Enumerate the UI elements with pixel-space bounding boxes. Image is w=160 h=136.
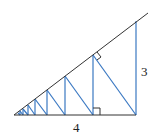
- right-angle-marker-hypotenuse: [97, 52, 101, 60]
- triangle-outline: [14, 13, 148, 115]
- height-label: 3: [141, 64, 148, 80]
- base-label: 4: [73, 120, 80, 136]
- triangle-diagram: [0, 0, 160, 136]
- right-angle-marker-base: [93, 108, 100, 115]
